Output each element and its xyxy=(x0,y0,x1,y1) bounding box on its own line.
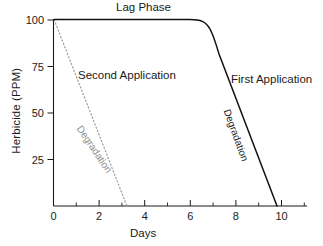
x-tick-label-0: 0 xyxy=(50,210,56,222)
chart-canvas: 100 75 50 25 0 2 4 6 8 10 xyxy=(0,0,323,246)
y-tick-label-25: 25 xyxy=(32,154,44,166)
first-application-curve xyxy=(54,20,277,207)
second-application-curve xyxy=(54,20,126,205)
y-tick-label-100: 100 xyxy=(26,14,44,26)
second-application-annotation: Second Application xyxy=(78,70,176,82)
y-tick-label-75: 75 xyxy=(32,61,44,73)
x-tick-label-4: 4 xyxy=(142,210,148,222)
y-tick-label-50: 50 xyxy=(32,107,44,119)
x-tick-label-10: 10 xyxy=(275,210,287,222)
first-application-annotation: First Application xyxy=(231,74,312,86)
x-tick-label-2: 2 xyxy=(96,210,102,222)
x-tick-label-8: 8 xyxy=(233,210,239,222)
y-axis-label: Herbicide (PPM) xyxy=(11,61,23,161)
y-axis-ticks xyxy=(48,20,54,160)
herbicide-degradation-chart: 100 75 50 25 0 2 4 6 8 10 Herbicide (PPM… xyxy=(0,0,323,246)
x-tick-label-6: 6 xyxy=(187,210,193,222)
x-axis-label: Days xyxy=(130,228,156,240)
lag-phase-annotation: Lag Phase xyxy=(116,2,171,14)
